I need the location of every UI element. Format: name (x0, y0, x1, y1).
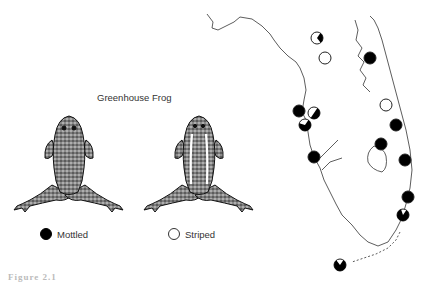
map-site-marker (319, 52, 331, 64)
filled-circle-icon (40, 228, 52, 240)
figure-caption: Figure 2.1 (8, 272, 57, 282)
map-site-marker (293, 105, 305, 117)
map-site-marker (299, 119, 311, 131)
map-site-marker (311, 32, 323, 44)
map-site-marker (390, 119, 402, 131)
tampa-bay (318, 140, 342, 170)
map-site-marker (364, 52, 376, 64)
mottled-frog-illustration (14, 116, 123, 212)
map-site-marker (380, 99, 392, 111)
striped-frog-illustration (144, 116, 253, 212)
gulf-coastline (207, 14, 412, 246)
legend-label: Mottled (57, 229, 88, 240)
map-site-marker (402, 191, 414, 203)
map-sites (293, 32, 414, 271)
legend-item-mottled: Mottled (40, 228, 88, 240)
legend-label: Striped (185, 229, 215, 240)
florida-keys (352, 232, 400, 262)
map-site-marker (308, 151, 320, 163)
map-site-marker (397, 209, 409, 221)
figure-title: Greenhouse Frog (97, 92, 171, 103)
map-site-marker (399, 154, 411, 166)
open-circle-icon (168, 228, 180, 240)
map-site-marker (334, 259, 346, 271)
map-site-marker (308, 107, 320, 119)
legend-item-striped: Striped (168, 228, 215, 240)
map-site-marker (375, 138, 387, 150)
